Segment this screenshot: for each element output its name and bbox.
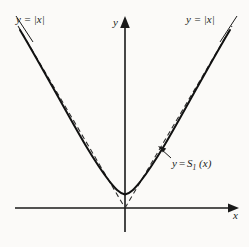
series-label-argument: (x) — [199, 157, 211, 169]
series-curve-label: y=S1 (x) — [172, 158, 211, 172]
y-axis-label: y — [113, 17, 118, 28]
series-label-subscript: 1 — [193, 163, 197, 172]
figure-container: y x y = |x| y = |x| y=S1 (x) — [0, 0, 249, 247]
x-axis-label: x — [233, 210, 238, 221]
series-label-equals: = — [177, 157, 187, 169]
abs-curve-label-left: y = |x| — [16, 14, 45, 25]
plot-canvas — [0, 0, 249, 247]
abs-curve-label-right: y = |x| — [186, 14, 215, 25]
leader-line-abs-right — [220, 16, 237, 42]
y-axis-arrowhead — [120, 16, 130, 28]
